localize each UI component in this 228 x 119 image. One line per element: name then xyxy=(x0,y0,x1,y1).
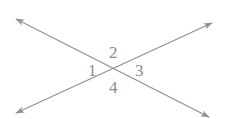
intersecting-lines-diagram: 1 2 3 4 xyxy=(0,0,228,119)
angle-label-1: 1 xyxy=(88,61,97,80)
angle-label-3: 3 xyxy=(135,61,144,80)
angle-label-4: 4 xyxy=(109,78,118,97)
angle-label-2: 2 xyxy=(109,43,118,62)
line-b xyxy=(16,23,212,113)
